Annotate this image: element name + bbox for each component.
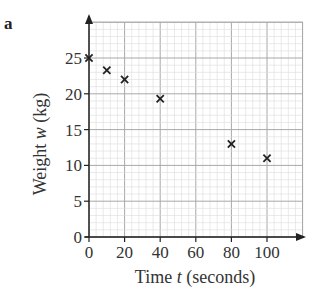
svg-text:100: 100 [254, 243, 280, 262]
data-point-marker [103, 67, 110, 74]
scatter-chart: 0204060801000510152025 Time t (seconds) … [0, 0, 318, 304]
y-axis-title: Weight w (kg) [30, 93, 51, 196]
svg-text:40: 40 [152, 243, 169, 262]
x-axis-title: Time t (seconds) [135, 267, 255, 288]
svg-text:20: 20 [65, 85, 82, 104]
svg-text:5: 5 [74, 192, 83, 211]
svg-text:0: 0 [74, 228, 83, 247]
svg-text:60: 60 [187, 243, 204, 262]
svg-text:25: 25 [65, 49, 82, 68]
svg-text:15: 15 [65, 121, 82, 140]
grid [89, 22, 303, 237]
svg-text:80: 80 [223, 243, 240, 262]
svg-text:20: 20 [116, 243, 133, 262]
svg-text:0: 0 [85, 243, 94, 262]
svg-text:10: 10 [65, 156, 82, 175]
